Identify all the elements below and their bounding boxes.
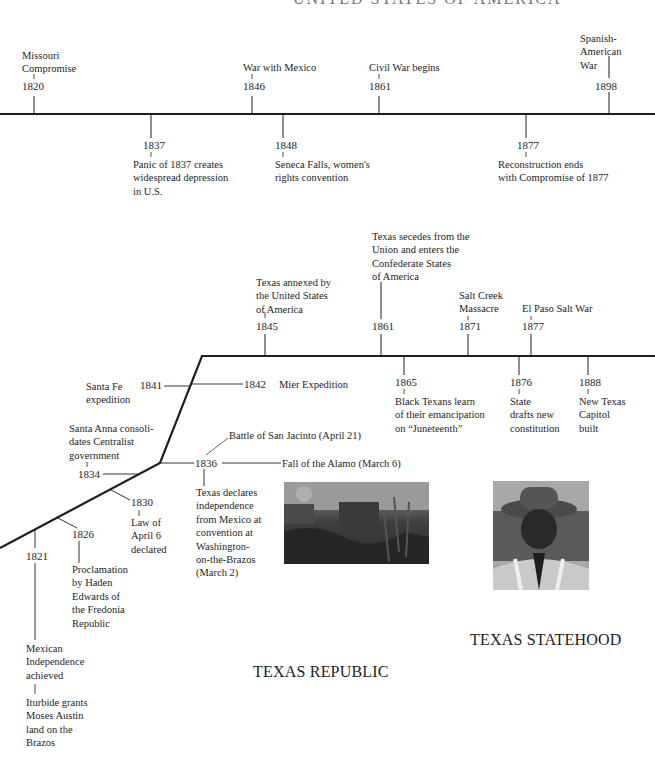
year-1888: 1888 <box>579 376 601 389</box>
event-panic-of-1837: Panic of 1837 creates widespread depress… <box>133 158 228 198</box>
label-line: declared <box>131 543 167 556</box>
event-texas-annexed: Texas annexed by the United States of Am… <box>256 276 331 316</box>
event-fredonia-proclamation: Proclamation by Haden Edwards of the Fre… <box>72 563 128 630</box>
label-line: expedition <box>86 393 130 406</box>
label-line: Texas annexed by <box>256 276 331 289</box>
label-line: Compromise <box>22 62 76 75</box>
event-fall-of-alamo: Fall of the Alamo (March 6) <box>282 457 401 470</box>
label-line: Panic of 1837 creates <box>133 158 228 171</box>
label-line: drafts new <box>510 408 560 421</box>
year-1821: 1821 <box>26 550 48 563</box>
year-1826: 1826 <box>72 528 94 541</box>
label-line: Proclamation <box>72 563 128 576</box>
label-line: Battle of San Jacinto (April 21) <box>229 429 361 442</box>
label-line: War with Mexico <box>243 61 316 74</box>
label-line: Civil War begins <box>369 61 440 74</box>
year-1830: 1830 <box>131 496 153 509</box>
label-line: Spanish- <box>580 32 621 45</box>
label-line: of their emancipation <box>395 408 485 421</box>
event-war-with-mexico: War with Mexico <box>243 61 316 74</box>
label-line: El Paso Salt War <box>522 302 592 315</box>
label-line: dates Centralist <box>69 435 154 448</box>
label-line: Missouri <box>22 49 76 62</box>
year-1836-label: 1836 <box>195 457 217 470</box>
event-seneca-falls: Seneca Falls, women's rights convention <box>275 158 370 185</box>
year-1845: 1845 <box>256 320 278 333</box>
event-battle-san-jacinto: Battle of San Jacinto (April 21) <box>229 429 361 442</box>
label-line: government <box>69 449 154 462</box>
year-1876: 1876 <box>510 376 532 389</box>
year-1842: 1842 <box>244 378 266 391</box>
label-line: Washington- <box>196 540 261 553</box>
event-santa-anna-centralist: Santa Anna consoli- dates Centralist gov… <box>69 422 154 462</box>
label-line: American <box>580 45 621 58</box>
label-line: New Texas <box>579 395 626 408</box>
label-line: of America <box>372 270 470 283</box>
event-mexican-independence: Mexican Independence achieved <box>26 642 84 682</box>
label-line: Santa Anna consoli- <box>69 422 154 435</box>
label-line: Reconstruction ends <box>498 158 609 171</box>
label-line: War <box>580 59 621 72</box>
label-line: (March 2) <box>196 566 261 579</box>
label-line: Massacre <box>459 302 503 315</box>
alamo-painting-image <box>284 482 429 564</box>
label-line: Union and enters the <box>372 243 470 256</box>
label-line: Confederate States <box>372 257 470 270</box>
event-new-constitution: State drafts new constitution <box>510 395 560 435</box>
label-line: Brazos <box>26 736 88 749</box>
year-1848: 1848 <box>275 139 297 152</box>
event-mier-expedition: Mier Expedition <box>279 378 348 391</box>
label-line: Iturbide grants <box>26 696 88 709</box>
label-line: on “Juneteenth” <box>395 422 485 435</box>
event-civil-war-begins: Civil War begins <box>369 61 440 74</box>
event-law-of-april-6: Law of April 6 declared <box>131 516 167 556</box>
label-line: Mier Expedition <box>279 378 348 391</box>
label-line: widespread depression <box>133 171 228 184</box>
label-line: convention at <box>196 526 261 539</box>
label-line: Independence <box>26 655 84 668</box>
label-line: Capitol <box>579 408 626 421</box>
heading-texas-statehood: TEXAS STATEHOOD <box>470 631 622 649</box>
portrait-photo <box>493 481 589 590</box>
year-1834: 1834 <box>78 468 100 481</box>
event-new-capitol: New Texas Capitol built <box>579 395 626 435</box>
label-line: Santa Fe <box>86 380 130 393</box>
event-juneteenth: Black Texans learn of their emancipation… <box>395 395 485 435</box>
year-1837: 1837 <box>143 139 165 152</box>
label-line: April 6 <box>131 529 167 542</box>
label-line: the United States <box>256 289 331 302</box>
label-line: Mexican <box>26 642 84 655</box>
event-reconstruction-ends: Reconstruction ends with Compromise of 1… <box>498 158 609 185</box>
heading-texas-republic: TEXAS REPUBLIC <box>253 663 389 681</box>
man-in-hat-portrait <box>493 481 589 590</box>
event-texas-declares-independence: Texas declares independence from Mexico … <box>196 486 261 580</box>
label-line: Edwards of <box>72 590 128 603</box>
label-line: by Haden <box>72 576 128 589</box>
year-1871: 1871 <box>459 320 481 333</box>
year-1820: 1820 <box>22 80 44 93</box>
year-1841: 1841 <box>140 379 162 392</box>
label-line: on-the-Brazos <box>196 553 261 566</box>
year-1861-tx: 1861 <box>372 320 394 333</box>
year-1877-tx: 1877 <box>522 320 544 333</box>
year-1865: 1865 <box>395 376 417 389</box>
label-line: of America <box>256 303 331 316</box>
label-line: Seneca Falls, women's <box>275 158 370 171</box>
label-line: Moses Austin <box>26 709 88 722</box>
label-line: rights convention <box>275 171 370 184</box>
label-line: independence <box>196 499 261 512</box>
label-line: Texas secedes from the <box>372 230 470 243</box>
label-line: State <box>510 395 560 408</box>
year-1877-us: 1877 <box>517 139 539 152</box>
event-santa-fe-expedition: Santa Fe expedition <box>86 380 130 407</box>
event-iturbide-grants: Iturbide grants Moses Austin land on the… <box>26 696 88 750</box>
year-1846: 1846 <box>243 80 265 93</box>
event-missouri-compromise: Missouri Compromise <box>22 49 76 76</box>
label-line: with Compromise of 1877 <box>498 171 609 184</box>
year-1861-us: 1861 <box>369 80 391 93</box>
label-line: achieved <box>26 669 84 682</box>
event-texas-secedes: Texas secedes from the Union and enters … <box>372 230 470 284</box>
label-line: the Fredonia <box>72 603 128 616</box>
label-line: in U.S. <box>133 185 228 198</box>
label-line: Fall of the Alamo (March 6) <box>282 457 401 470</box>
